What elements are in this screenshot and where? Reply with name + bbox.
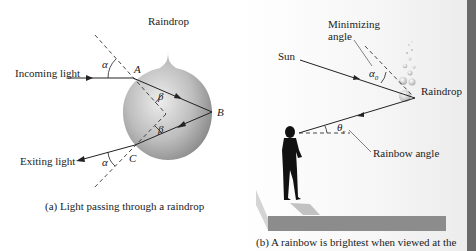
exiting-arrow-icon [76, 156, 85, 162]
person-silhouette [282, 126, 302, 200]
exiting-light-label: Exiting light [20, 156, 75, 167]
theta-r-arc [325, 126, 327, 133]
return-ray-arrow-icon [357, 112, 364, 117]
sun-label: Sun [278, 51, 295, 62]
incoming-arrow-icon [86, 75, 93, 81]
alpha-bottom-arc [108, 152, 115, 166]
rainbow-angle-label: Rainbow angle [373, 148, 439, 159]
diagram-canvas [0, 0, 476, 251]
alpha-top-label: α [102, 59, 108, 70]
point-a-label: A [134, 64, 141, 75]
minimizing-angle-leader [354, 40, 372, 66]
beta-bottom-label: β [158, 124, 163, 135]
caption-a: (a) Light passing through a raindrop [45, 200, 204, 212]
floor-side [256, 190, 268, 230]
minimizing-angle-label-line1: Minimizing [328, 19, 380, 30]
alpha0-subscript: 0 [375, 74, 379, 82]
alpha0-label: α0 [369, 68, 378, 82]
point-b-label: B [217, 107, 224, 118]
alpha0-arc [381, 72, 386, 83]
raindrop-label-b: Raindrop [421, 86, 462, 97]
raindrop-label-a: Raindrop [148, 16, 189, 27]
caption-b: (b) A rainbow is brightest when viewed a… [256, 236, 456, 248]
theta-subscript: r [342, 128, 345, 136]
beta-top-label: β [158, 91, 163, 102]
person-shadow [290, 203, 320, 215]
raindrop-bubbles [399, 41, 416, 102]
floor [268, 216, 446, 231]
minimizing-angle-label-line2: angle [328, 31, 352, 42]
rainbow-angle-leader [349, 130, 371, 152]
theta-r-label: θr [337, 122, 345, 136]
point-c-label: C [129, 153, 136, 164]
alpha-bottom-label: α [102, 157, 108, 168]
alpha-top-arc [108, 59, 116, 78]
incoming-light-label: Incoming light [15, 68, 80, 79]
